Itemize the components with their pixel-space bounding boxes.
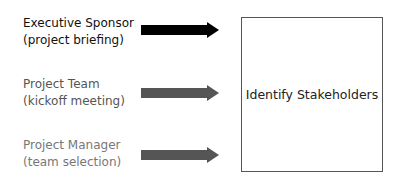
input-title: Project Manager: [23, 137, 121, 154]
input-label-executive-sponsor: Executive Sponsor (project briefing): [23, 15, 134, 49]
input-subtitle: (project briefing): [23, 32, 134, 49]
arrow-right-icon: [141, 22, 219, 38]
input-subtitle: (team selection): [23, 154, 121, 171]
input-label-project-team: Project Team (kickoff meeting): [23, 76, 125, 110]
process-box-identify-stakeholders: Identify Stakeholders: [241, 17, 383, 172]
input-label-project-manager: Project Manager (team selection): [23, 137, 121, 171]
input-subtitle: (kickoff meeting): [23, 93, 125, 110]
process-label: Identify Stakeholders: [246, 87, 378, 102]
input-title: Executive Sponsor: [23, 15, 134, 32]
input-title: Project Team: [23, 76, 125, 93]
arrow-right-icon: [141, 85, 219, 101]
arrow-right-icon: [141, 147, 219, 163]
